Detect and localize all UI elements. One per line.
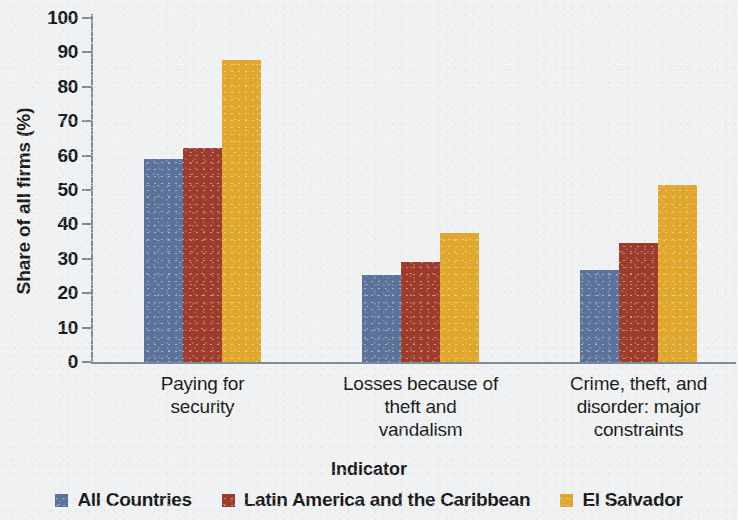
- y-tick-label: 50: [32, 179, 78, 201]
- legend-swatch-icon: [560, 494, 573, 507]
- y-axis-tick-labels: 0102030405060708090100: [0, 0, 78, 520]
- legend-label: El Salvador: [582, 489, 682, 511]
- legend-item: El Salvador: [560, 489, 682, 511]
- legend-swatch-icon: [222, 494, 235, 507]
- y-tick-label: 20: [32, 282, 78, 304]
- y-tick-mark: [82, 361, 91, 363]
- y-tick-label: 70: [32, 110, 78, 132]
- y-tick-mark: [82, 155, 91, 157]
- bar: [440, 233, 479, 362]
- x-axis-line: [91, 362, 736, 364]
- bar: [658, 185, 697, 362]
- y-tick-label: 90: [32, 41, 78, 63]
- y-axis-line: [91, 14, 93, 364]
- legend-swatch-icon: [55, 494, 68, 507]
- y-tick-label: 80: [32, 76, 78, 98]
- category-label-line: constraints: [529, 418, 738, 441]
- legend-item: All Countries: [55, 489, 191, 511]
- y-tick-mark: [82, 327, 91, 329]
- bar: [362, 275, 401, 362]
- chart-legend: All CountriesLatin America and the Carib…: [0, 489, 738, 511]
- bar: [580, 270, 619, 362]
- y-tick-label: 0: [32, 351, 78, 373]
- y-tick-label: 30: [32, 248, 78, 270]
- legend-item: Latin America and the Caribbean: [222, 489, 531, 511]
- category-label-line: vandalism: [311, 418, 531, 441]
- bar: [401, 262, 440, 362]
- category-label-line: security: [93, 395, 313, 418]
- y-tick-mark: [82, 17, 91, 19]
- bar: [144, 159, 183, 362]
- x-axis-category-label: Paying forsecurity: [93, 372, 313, 418]
- legend-label: All Countries: [77, 489, 191, 511]
- y-tick-mark: [82, 86, 91, 88]
- y-tick-label: 100: [32, 7, 78, 29]
- bar: [222, 60, 261, 362]
- legend-label: Latin America and the Caribbean: [244, 489, 531, 511]
- y-tick-mark: [82, 223, 91, 225]
- y-tick-mark: [82, 51, 91, 53]
- bar: [619, 243, 658, 362]
- y-tick-label: 60: [32, 145, 78, 167]
- y-tick-label: 10: [32, 317, 78, 339]
- y-tick-mark: [82, 189, 91, 191]
- x-axis-category-label: Crime, theft, anddisorder: majorconstrai…: [529, 372, 738, 441]
- category-label-line: Crime, theft, and: [529, 372, 738, 395]
- category-label-line: theft and: [311, 395, 531, 418]
- y-tick-mark: [82, 258, 91, 260]
- y-tick-label: 40: [32, 213, 78, 235]
- y-tick-mark: [82, 120, 91, 122]
- x-axis-title: Indicator: [0, 459, 738, 480]
- category-label-line: disorder: major: [529, 395, 738, 418]
- bar-chart: Share of all firms (%) 01020304050607080…: [0, 0, 738, 520]
- x-axis-category-label: Losses because oftheft andvandalism: [311, 372, 531, 441]
- category-label-line: Losses because of: [311, 372, 531, 395]
- category-label-line: Paying for: [93, 372, 313, 395]
- bar: [183, 148, 222, 362]
- y-tick-mark: [82, 292, 91, 294]
